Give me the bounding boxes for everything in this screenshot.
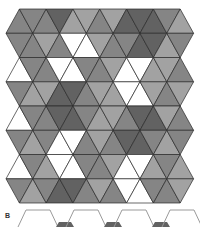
panel-b-hexagon-outline — [18, 210, 58, 227]
triangle-tiling — [0, 0, 200, 227]
panel-b-dark-trapezoid — [56, 222, 74, 227]
panel-b-label: B — [5, 212, 10, 219]
panel-b-dark-trapezoid — [152, 222, 170, 227]
triangular-tiling-figure: B — [0, 0, 200, 227]
panel-b-dark-trapezoid — [104, 222, 122, 227]
